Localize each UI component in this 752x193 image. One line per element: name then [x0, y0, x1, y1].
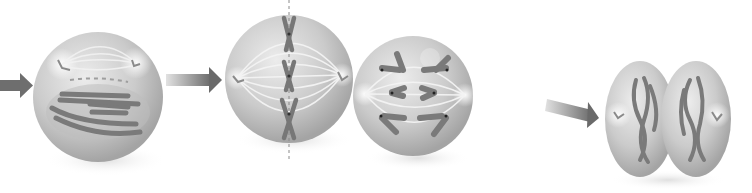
arrow-start-to-stage-1	[0, 73, 33, 98]
stage-4-cell	[605, 61, 731, 190]
arrow-stage-3-to-stage-4	[545, 99, 599, 128]
mitosis-diagram	[0, 0, 752, 193]
stage-3-cell	[353, 36, 477, 170]
stage-2-cell	[225, 0, 354, 160]
arrow-stage-1-to-stage-2	[166, 67, 222, 93]
stage-1-cell	[33, 32, 166, 176]
